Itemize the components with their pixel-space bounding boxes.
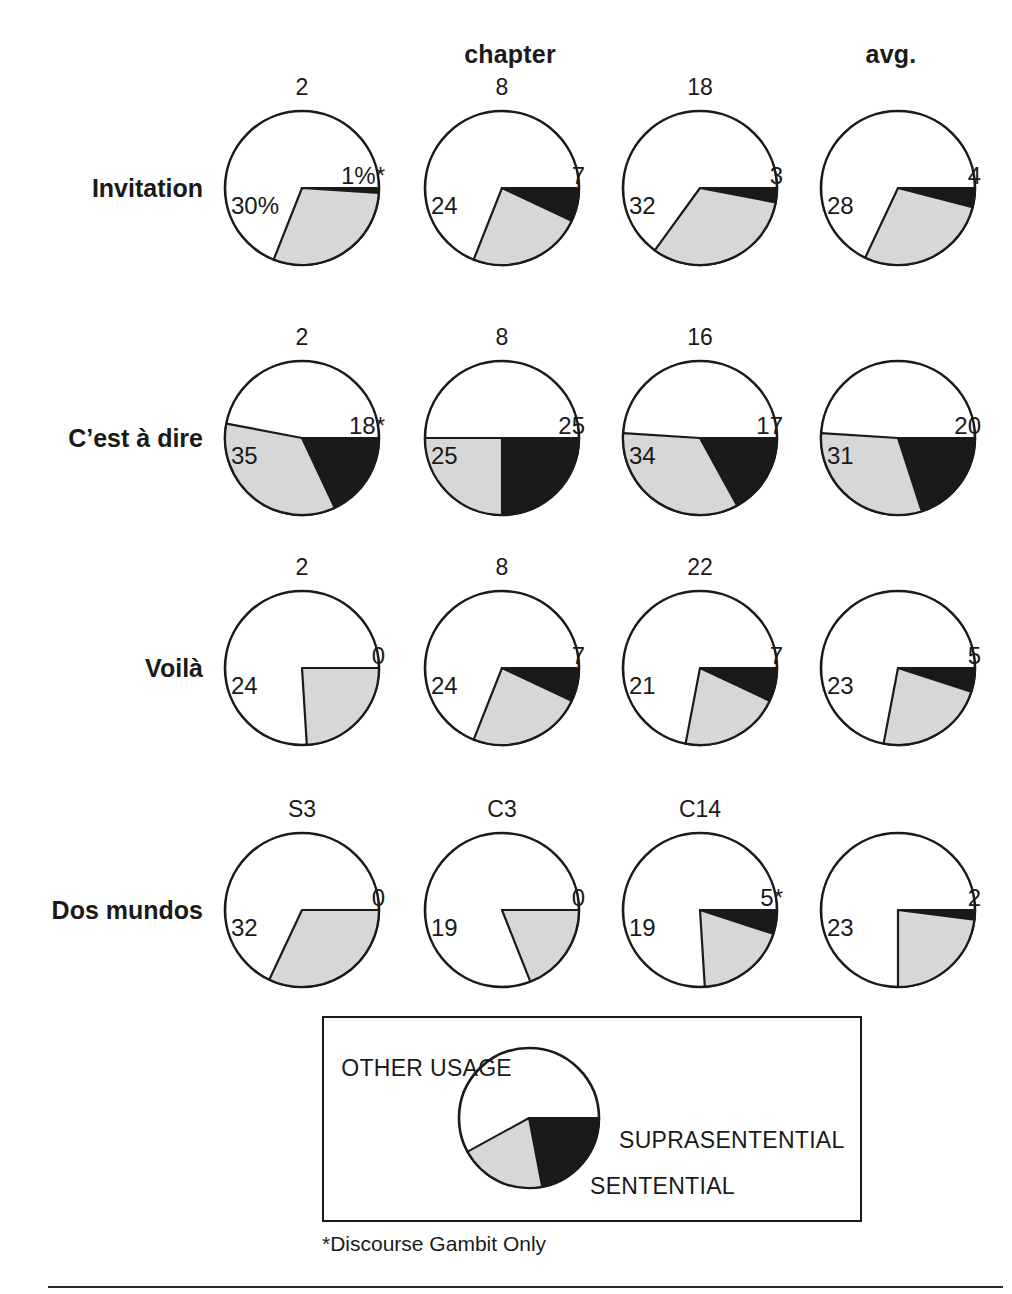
pie-column-label: 22 [687,554,713,581]
pie-value-sentential: 34 [629,442,656,470]
row-label: Voilà [0,654,203,683]
pie-value-sentential: 30% [231,192,279,220]
pie-column-label: C3 [487,796,516,823]
pie-column-label: 8 [496,324,509,351]
pie-value-suprasentential: 1%* [341,162,385,190]
pie-chart [817,107,979,269]
pie-value-sentential: 32 [231,914,258,942]
pie-column-label: S3 [288,796,316,823]
pie-value-sentential: 25 [431,442,458,470]
pie-value-sentential: 19 [629,914,656,942]
pie-value-sentential: 32 [629,192,656,220]
footnote: *Discourse Gambit Only [322,1232,546,1256]
row-label: Dos mundos [0,896,203,925]
pie-value-sentential: 19 [431,914,458,942]
pie-chart [421,829,583,991]
pie-value-suprasentential: 7 [572,162,585,190]
legend-box: OTHER USAGE SUPRASENTENTIAL SENTENTIAL [322,1016,862,1222]
pie-value-suprasentential: 7 [572,642,585,670]
column-group-header-avg: avg. [866,40,917,69]
pie-value-suprasentential: 0 [372,642,385,670]
pie-chart [221,829,383,991]
pie-value-sentential: 31 [827,442,854,470]
pie-value-sentential: 24 [431,192,458,220]
pie-column-label: C14 [679,796,721,823]
figure-canvas: chapter avg. Invitation21%*30%8724183324… [0,0,1012,1294]
pie-value-suprasentential: 0 [372,884,385,912]
pie-chart [817,829,979,991]
pie-value-sentential: 23 [827,914,854,942]
pie-column-label: 2 [296,74,309,101]
pie-value-suprasentential: 5 [968,642,981,670]
row-label: C’est à dire [0,424,203,453]
pie-column-label: 16 [687,324,713,351]
pie-column-label: 18 [687,74,713,101]
pie-chart [221,587,383,749]
pie-column-label: 8 [496,74,509,101]
pie-value-suprasentential: 4 [968,162,981,190]
pie-value-suprasentential: 20 [954,412,981,440]
pie-value-suprasentential: 0 [572,884,585,912]
pie-chart [619,107,781,269]
pie-value-suprasentential: 7 [770,642,783,670]
pie-chart [619,587,781,749]
pie-value-suprasentential: 3 [770,162,783,190]
pie-column-label: 8 [496,554,509,581]
pie-value-suprasentential: 18* [349,412,385,440]
pie-column-label: 2 [296,554,309,581]
row-label: Invitation [0,174,203,203]
legend-label-suprasentential: SUPRASENTENTIAL [619,1127,845,1154]
legend-label-sentential: SENTENTIAL [590,1173,735,1200]
bottom-rule [48,1286,1003,1288]
pie-value-sentential: 35 [231,442,258,470]
pie-value-suprasentential: 17 [756,412,783,440]
pie-chart [817,587,979,749]
pie-value-sentential: 24 [231,672,258,700]
pie-value-suprasentential: 25 [558,412,585,440]
pie-chart [421,107,583,269]
pie-column-label: 2 [296,324,309,351]
legend-label-other-usage: OTHER USAGE [341,1055,512,1082]
pie-value-suprasentential: 5* [760,884,783,912]
pie-value-sentential: 24 [431,672,458,700]
pie-chart [421,587,583,749]
pie-value-suprasentential: 2 [968,884,981,912]
pie-value-sentential: 23 [827,672,854,700]
pie-value-sentential: 28 [827,192,854,220]
pie-chart [619,829,781,991]
column-group-header-chapter: chapter [464,40,556,69]
pie-value-sentential: 21 [629,672,656,700]
